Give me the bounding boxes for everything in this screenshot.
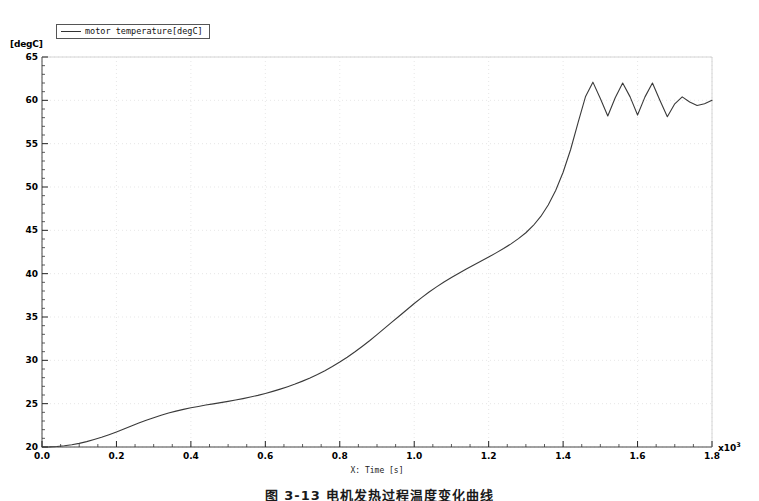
legend-line-swatch bbox=[61, 31, 81, 32]
x-axis-tick-labels: 0.00.20.40.60.81.01.21.41.61.8 bbox=[0, 0, 759, 501]
x-axis-multiplier-base: x10 bbox=[718, 443, 736, 453]
figure-caption: 图 3-13 电机发热过程温度变化曲线 bbox=[0, 487, 759, 501]
x-tick-label: 0.4 bbox=[171, 451, 211, 461]
chart-legend: motor temperature[degC] bbox=[56, 24, 210, 39]
x-tick-label: 0.8 bbox=[320, 451, 360, 461]
x-tick-label: 1.0 bbox=[394, 451, 434, 461]
x-tick-label: 1.4 bbox=[543, 451, 583, 461]
x-tick-label: 0.6 bbox=[245, 451, 285, 461]
x-tick-label: 1.2 bbox=[469, 451, 509, 461]
x-axis-multiplier-label: x103 bbox=[718, 441, 741, 453]
legend-entry-label: motor temperature[degC] bbox=[85, 27, 203, 36]
x-axis-multiplier-exponent: 3 bbox=[736, 441, 741, 449]
x-axis-title: X: Time [s] bbox=[42, 466, 712, 475]
figure-container: [degC] 20253035404550556065 0.00.20.40.6… bbox=[0, 0, 759, 501]
x-tick-label: 1.6 bbox=[618, 451, 658, 461]
x-tick-label: 0.2 bbox=[96, 451, 136, 461]
x-tick-label: 0.0 bbox=[22, 451, 62, 461]
